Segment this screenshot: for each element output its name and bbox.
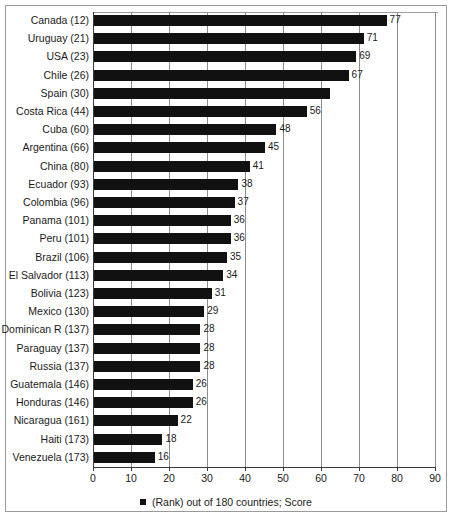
legend-entry-label: (Rank) out of 180 countries; Score <box>152 496 312 508</box>
bar-value-label: 56 <box>310 102 321 119</box>
x-tick-label: 30 <box>201 472 213 485</box>
bar <box>94 270 223 281</box>
bar <box>94 33 364 44</box>
category-label: Venezuela (173) <box>13 449 89 466</box>
bar-row: Brazil (106)35 <box>93 249 438 267</box>
bar-row: Costa Rica (44)56 <box>93 103 438 121</box>
x-tick-60 <box>321 467 322 471</box>
category-label: Dominican R (137) <box>1 321 89 338</box>
bar <box>94 397 193 408</box>
bar-row: Russia (137)28 <box>93 358 438 376</box>
category-label: Colombia (96) <box>23 194 89 211</box>
bar <box>94 179 238 190</box>
bar-row: Argentina (66)45 <box>93 139 438 157</box>
plot-area: Canada (12)77Uruguay (21)71USA (23)69Chi… <box>93 12 438 467</box>
bar-row: Uruguay (21)71 <box>93 30 438 48</box>
chart-frame: Canada (12)77Uruguay (21)71USA (23)69Chi… <box>5 5 447 512</box>
bar-value-label: 36 <box>234 211 245 228</box>
category-label: Bolivia (123) <box>31 285 89 302</box>
bar <box>94 51 356 62</box>
category-label: Honduras (146) <box>16 394 89 411</box>
category-label: USA (23) <box>46 48 89 65</box>
bar <box>94 288 212 299</box>
bar-value-label: 37 <box>238 193 249 210</box>
chart-canvas: Canada (12)77Uruguay (21)71USA (23)69Chi… <box>6 6 446 511</box>
bar <box>94 233 231 244</box>
category-label: Ecuador (93) <box>28 176 89 193</box>
bar-row: Canada (12)77 <box>93 12 438 30</box>
category-label: Canada (12) <box>31 12 89 29</box>
bar-row: Bolivia (123)31 <box>93 285 438 303</box>
bar <box>94 361 200 372</box>
x-tick-label: 20 <box>163 472 175 485</box>
category-label: Chile (26) <box>43 67 89 84</box>
bar <box>94 70 349 81</box>
bar <box>94 215 231 226</box>
x-tick-label: 70 <box>353 472 365 485</box>
bar-row: Panama (101)36 <box>93 212 438 230</box>
bar-value-label: 38 <box>241 175 252 192</box>
category-label: Uruguay (21) <box>28 30 89 47</box>
bar-value-label: 77 <box>390 11 401 28</box>
x-tick-label: 40 <box>239 472 251 485</box>
chart-legend: (Rank) out of 180 countries; Score <box>6 492 446 510</box>
bar <box>94 434 162 445</box>
bar-value-label: 71 <box>367 29 378 46</box>
bar-row: Ecuador (93)38 <box>93 176 438 194</box>
bar <box>94 252 227 263</box>
x-tick-70 <box>359 467 360 471</box>
bar <box>94 88 330 99</box>
bar-row: El Salvador (113)34 <box>93 267 438 285</box>
x-tick-40 <box>245 467 246 471</box>
bar <box>94 343 200 354</box>
category-label: Paraguay (137) <box>17 340 89 357</box>
x-tick-80 <box>397 467 398 471</box>
legend-swatch-icon <box>140 499 146 505</box>
bar-row: Cuba (60)48 <box>93 121 438 139</box>
category-label: Guatemala (146) <box>10 376 89 393</box>
bar-row: Guatemala (146)26 <box>93 376 438 394</box>
bar <box>94 197 235 208</box>
bar-value-label: 36 <box>234 229 245 246</box>
bar-row: USA (23)69 <box>93 48 438 66</box>
category-label: Cuba (60) <box>42 121 89 138</box>
category-label: El Salvador (113) <box>9 267 89 284</box>
bar-value-label: 29 <box>207 302 218 319</box>
category-label: Mexico (130) <box>28 303 89 320</box>
bar-value-label: 67 <box>352 66 363 83</box>
bar-rows: Canada (12)77Uruguay (21)71USA (23)69Chi… <box>93 12 438 467</box>
bar-value-label: 69 <box>359 47 370 64</box>
x-tick-label: 10 <box>125 472 137 485</box>
x-tick-label: 90 <box>429 472 441 485</box>
category-label: Brazil (106) <box>35 249 89 266</box>
category-label: Panama (101) <box>22 212 89 229</box>
x-tick-label: 50 <box>277 472 289 485</box>
category-label: Peru (101) <box>39 230 89 247</box>
bar-value-label: 45 <box>268 138 279 155</box>
bar-row: Peru (101)36 <box>93 230 438 248</box>
x-tick-30 <box>207 467 208 471</box>
bar-value-label: 22 <box>181 411 192 428</box>
bar <box>94 106 307 117</box>
bar-row: Chile (26)67 <box>93 67 438 85</box>
bar-row: Venezuela (173)16 <box>93 449 438 467</box>
bar-value-label: 31 <box>215 284 226 301</box>
x-tick-label: 0 <box>90 472 96 485</box>
bar <box>94 15 387 26</box>
category-label: Russia (137) <box>29 358 89 375</box>
x-tick-label: 60 <box>315 472 327 485</box>
bar <box>94 415 178 426</box>
category-label: Spain (30) <box>41 85 89 102</box>
bar-value-label: 28 <box>203 320 214 337</box>
bar-row: Spain (30) <box>93 85 438 103</box>
category-label: Costa Rica (44) <box>16 103 89 120</box>
bar <box>94 161 250 172</box>
x-axis: 0102030405060708090 <box>93 467 438 491</box>
x-tick-90 <box>435 467 436 471</box>
bar-row: Honduras (146)26 <box>93 394 438 412</box>
bar-row: Dominican R (137)28 <box>93 321 438 339</box>
bar-value-label: 28 <box>203 357 214 374</box>
x-tick-50 <box>283 467 284 471</box>
x-tick-20 <box>169 467 170 471</box>
bar <box>94 379 193 390</box>
